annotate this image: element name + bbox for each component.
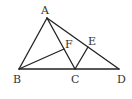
point-label-a: A <box>40 4 50 17</box>
point-label-e: E <box>88 35 96 48</box>
point-label-d: D <box>117 73 126 86</box>
segment-AB <box>19 18 47 69</box>
geometry-diagram: A B C D E F <box>0 0 132 99</box>
point-label-f: F <box>65 38 73 51</box>
segment-BF <box>19 49 64 69</box>
point-label-c: C <box>71 73 79 86</box>
point-label-b: B <box>13 73 21 86</box>
segment-CE <box>75 47 88 69</box>
segment-AD <box>47 18 119 69</box>
